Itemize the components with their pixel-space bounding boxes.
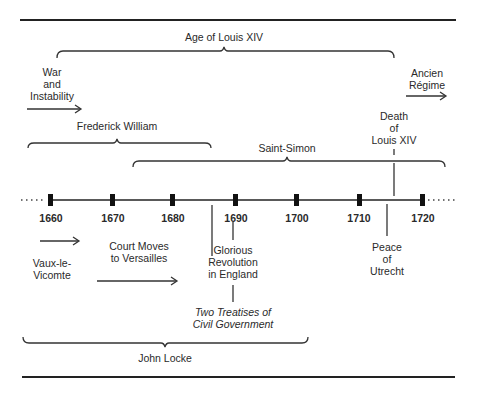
- age-of-louis-xiv-bracket: [57, 47, 394, 58]
- age-of-louis-xiv-label: Age of Louis XIV: [174, 31, 274, 43]
- glorious-revolution-label: Glorious Revolution in England: [198, 244, 268, 280]
- year-label-1700: 1700: [285, 212, 308, 224]
- frederick-william-label: Frederick William: [67, 120, 167, 132]
- john-locke-bracket: [23, 337, 308, 347]
- year-label-1720: 1720: [411, 212, 434, 224]
- war-and-instability-label: War and Instability: [22, 66, 82, 102]
- year-label-1660: 1660: [39, 212, 62, 224]
- court-moves-label: Court Moves to Versailles: [99, 240, 179, 264]
- year-label-1670: 1670: [101, 212, 124, 224]
- two-treatises-label: Two Treatises of Civil Government: [183, 306, 283, 330]
- year-label-1680: 1680: [161, 212, 184, 224]
- death-of-louis-xiv-label: Death of Louis XIV: [364, 110, 424, 146]
- frederick-william-bracket: [28, 139, 211, 148]
- vaux-le-vicomte-label: Vaux-le- Vicomte: [22, 257, 82, 281]
- saint-simon-label: Saint-Simon: [237, 142, 337, 154]
- year-label-1710: 1710: [347, 212, 370, 224]
- peace-of-utrecht-label: Peace of Utrecht: [357, 241, 417, 277]
- saint-simon-bracket: [133, 157, 445, 167]
- year-label-1690: 1690: [224, 212, 247, 224]
- john-locke-label: John Locke: [115, 352, 215, 364]
- timeline-graphics: [0, 0, 477, 396]
- ancien-regime-label: Ancien Régime: [397, 67, 457, 91]
